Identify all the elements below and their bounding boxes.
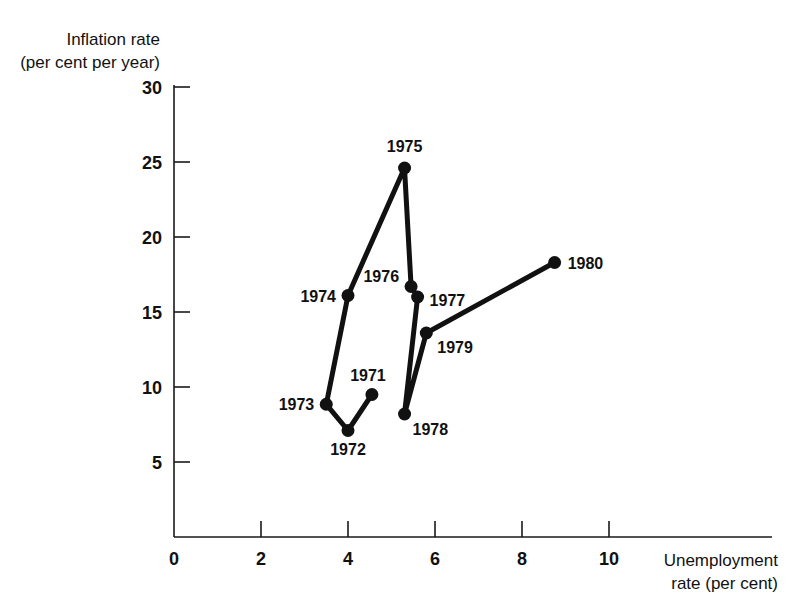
phillips-curve-chart: 51015202530 0246810 19711972197319741975… (0, 0, 795, 605)
y-tick-label: 20 (142, 228, 162, 248)
data-point-label-1975: 1975 (387, 138, 423, 155)
x-axis-ticks: 0246810 (169, 521, 619, 569)
x-tick-label: 4 (343, 549, 353, 569)
data-point-1974 (342, 289, 355, 302)
y-tick-label: 15 (142, 303, 162, 323)
x-tick-label: 6 (430, 549, 440, 569)
data-point-label-1977: 1977 (430, 292, 466, 309)
data-point-1971 (365, 388, 378, 401)
data-point-1972 (342, 424, 355, 437)
y-axis-ticks: 51015202530 (142, 78, 190, 473)
y-tick-label: 5 (152, 453, 162, 473)
y-axis-title-line2: (per cent per year) (20, 53, 160, 72)
data-point-label-1978: 1978 (413, 421, 449, 438)
y-tick-label: 30 (142, 78, 162, 98)
data-point-label-1976: 1976 (363, 268, 399, 285)
data-point-label-1971: 1971 (350, 367, 386, 384)
x-tick-label: 10 (599, 549, 619, 569)
data-point-1973 (320, 398, 333, 411)
axes (174, 85, 772, 537)
y-tick-label: 25 (142, 153, 162, 173)
data-point-label-1972: 1972 (330, 441, 366, 458)
x-tick-label: 8 (517, 549, 527, 569)
data-point-1975 (398, 162, 411, 175)
data-point-1980 (548, 256, 561, 269)
x-tick-label: 0 (169, 549, 179, 569)
data-point-1977 (411, 291, 424, 304)
data-point-label-1980: 1980 (568, 255, 604, 272)
data-point-label-1974: 1974 (300, 288, 336, 305)
chart-page: 51015202530 0246810 19711972197319741975… (0, 0, 795, 605)
y-axis-title-line1: Inflation rate (66, 30, 160, 49)
data-point-1978 (398, 408, 411, 421)
data-point-1979 (420, 327, 433, 340)
x-axis-title-line2: rate (per cent) (671, 574, 778, 593)
x-axis-title-line1: Unemployment (664, 551, 779, 570)
y-tick-label: 10 (142, 378, 162, 398)
data-point-label-1979: 1979 (437, 339, 473, 356)
data-point-label-1973: 1973 (279, 396, 315, 413)
x-tick-label: 2 (256, 549, 266, 569)
